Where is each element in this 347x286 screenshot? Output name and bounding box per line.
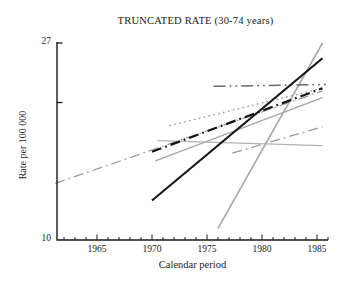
x-tick-label: 1965 — [80, 244, 114, 254]
axes — [57, 42, 328, 240]
trend-line-gray-low-dash-dot-trend — [232, 127, 322, 153]
trend-line-flat-dash-dot-dot-trend — [214, 85, 326, 87]
trend-line-gray-flat-solid-trend — [158, 141, 323, 146]
x-tick-label: 1985 — [300, 244, 334, 254]
x-tick-label: 1975 — [190, 244, 224, 254]
x-tick-label: 1970 — [135, 244, 169, 254]
x-axis-title: Calendar period — [57, 259, 328, 270]
y-tick-label: 27 — [28, 36, 51, 46]
plot-area — [0, 0, 347, 286]
truncated-rate-chart: TRUNCATED RATE (30-74 years) Rate per 10… — [0, 0, 347, 286]
y-tick-label: 10 — [28, 233, 51, 243]
trend-line-black-solid-trend — [152, 58, 323, 200]
x-tick-label: 1980 — [245, 244, 279, 254]
